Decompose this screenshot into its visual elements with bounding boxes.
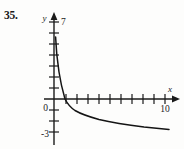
y-axis-label: y (42, 13, 47, 23)
coordinate-plane-svg: y 7 0 -3 x 10 (0, 0, 184, 149)
graph-figure: y 7 0 -3 x 10 (0, 0, 184, 149)
origin-label-0: 0 (43, 103, 48, 113)
x-axis-arrow-icon (172, 96, 180, 103)
y-axis-group (49, 12, 59, 145)
y-tick-label-7: 7 (61, 17, 66, 27)
x-tick-label-10: 10 (160, 104, 170, 114)
function-curve (56, 37, 169, 129)
y-axis-arrow-icon (51, 12, 58, 20)
x-axis-label: x (167, 84, 172, 94)
y-tick-label-minus-3: -3 (41, 129, 49, 139)
figure-page: 35. (0, 0, 184, 149)
plotted-curve-group (56, 37, 169, 129)
